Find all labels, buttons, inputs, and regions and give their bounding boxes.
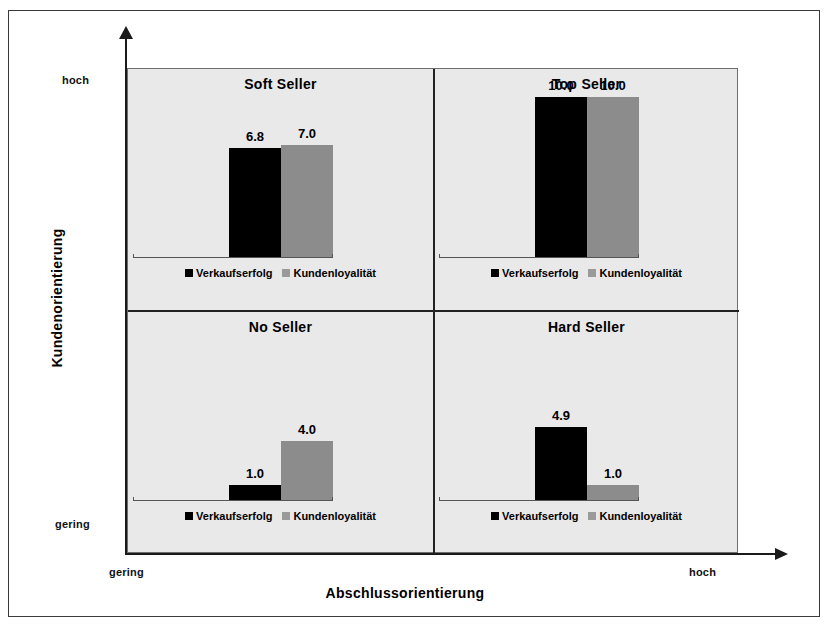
legend-item-verkaufserfolg: Verkaufserfolg	[185, 510, 272, 522]
panel-chart: 4.9 1.0	[482, 352, 692, 500]
legend-item-verkaufserfolg: Verkaufserfolg	[491, 267, 578, 279]
bar-verkaufserfolg[interactable]: 4.9	[535, 427, 587, 500]
panel-legend: Verkaufserfolg Kundenloyalität	[128, 267, 433, 279]
bar-value-label: 1.0	[246, 466, 264, 481]
legend-item-verkaufserfolg: Verkaufserfolg	[491, 510, 578, 522]
bars-area: 4.9 1.0	[482, 352, 692, 500]
legend-item-kundenloyalitaet: Kundenloyalität	[588, 267, 682, 279]
y-axis-tick-low: gering	[55, 518, 90, 530]
panel-baseline	[439, 257, 639, 258]
quadrant-title: No Seller	[128, 319, 433, 335]
bar-value-label: 1.0	[604, 466, 622, 481]
quadrant-no-seller[interactable]: No Seller 1.0 4.0 Verkaufserfolg	[128, 312, 433, 553]
legend-swatch-icon	[491, 269, 499, 277]
bar-value-label: 7.0	[298, 126, 316, 141]
bar-kundenloyalitaet[interactable]: 1.0	[587, 485, 639, 500]
quadrant-title: Top Seller	[434, 76, 739, 92]
bar-pair: 4.9 1.0	[535, 352, 639, 500]
panel-legend: Verkaufserfolg Kundenloyalität	[128, 510, 433, 522]
bar-value-label: 10.0	[600, 78, 625, 93]
bar-kundenloyalitaet[interactable]: 4.0	[281, 441, 333, 500]
legend-swatch-icon	[282, 512, 290, 520]
y-axis-tick-high: hoch	[62, 74, 89, 86]
bars-area: 1.0 4.0	[176, 352, 386, 500]
y-axis-title: Kundenorientierung	[49, 203, 65, 393]
panel-chart: 1.0 4.0	[176, 352, 386, 500]
quadrant-title: Hard Seller	[434, 319, 739, 335]
panel-chart: 6.8 7.0	[176, 97, 386, 257]
legend-swatch-icon	[491, 512, 499, 520]
bar-verkaufserfolg[interactable]: 10.0	[535, 97, 587, 257]
bar-pair: 1.0 4.0	[229, 352, 333, 500]
panel-chart: 10.0 10.0	[482, 97, 692, 257]
bar-verkaufserfolg[interactable]: 1.0	[229, 485, 281, 500]
legend-item-kundenloyalitaet: Kundenloyalität	[588, 510, 682, 522]
bar-value-label: 6.8	[246, 129, 264, 144]
bar-value-label: 10.0	[548, 78, 573, 93]
legend-swatch-icon	[588, 269, 596, 277]
bars-area: 6.8 7.0	[176, 97, 386, 257]
legend-swatch-icon	[185, 269, 193, 277]
bar-kundenloyalitaet[interactable]: 10.0	[587, 97, 639, 257]
legend-label: Verkaufserfolg	[196, 510, 272, 522]
x-axis-line	[125, 553, 777, 555]
legend-label: Verkaufserfolg	[502, 267, 578, 279]
panel-baseline	[133, 500, 333, 501]
legend-item-kundenloyalitaet: Kundenloyalität	[282, 510, 376, 522]
quadrant-title: Soft Seller	[128, 76, 433, 92]
bar-value-label: 4.0	[298, 422, 316, 437]
bar-value-label: 4.9	[552, 408, 570, 423]
y-axis-arrow-icon	[119, 26, 133, 39]
legend-swatch-icon	[282, 269, 290, 277]
legend-item-kundenloyalitaet: Kundenloyalität	[282, 267, 376, 279]
legend-label: Verkaufserfolg	[196, 267, 272, 279]
panel-legend: Verkaufserfolg Kundenloyalität	[434, 510, 739, 522]
legend-swatch-icon	[185, 512, 193, 520]
legend-item-verkaufserfolg: Verkaufserfolg	[185, 267, 272, 279]
bar-kundenloyalitaet[interactable]: 7.0	[281, 145, 333, 257]
legend-label: Verkaufserfolg	[502, 510, 578, 522]
x-axis-arrow-icon	[775, 548, 788, 560]
x-axis-title: Abschlussorientierung	[235, 585, 575, 601]
quadrant-soft-seller[interactable]: Soft Seller 6.8 7.0 Verkaufserfolg	[128, 69, 433, 310]
x-axis-tick-low: gering	[109, 566, 144, 578]
panel-legend: Verkaufserfolg Kundenloyalität	[434, 267, 739, 279]
panel-baseline	[439, 500, 639, 501]
legend-label: Kundenloyalität	[293, 510, 376, 522]
panel-baseline	[133, 257, 333, 258]
legend-label: Kundenloyalität	[599, 267, 682, 279]
legend-label: Kundenloyalität	[293, 267, 376, 279]
legend-label: Kundenloyalität	[599, 510, 682, 522]
bar-pair: 10.0 10.0	[535, 97, 639, 257]
quadrant-matrix: Soft Seller 6.8 7.0 Verkaufserfolg	[127, 68, 738, 553]
quadrant-top-seller[interactable]: Top Seller 10.0 10.0 Verkaufserfolg	[434, 69, 739, 310]
bar-verkaufserfolg[interactable]: 6.8	[229, 148, 281, 257]
quadrant-hard-seller[interactable]: Hard Seller 4.9 1.0 Verkaufserfolg	[434, 312, 739, 553]
x-axis-tick-high: hoch	[689, 566, 716, 578]
bars-area: 10.0 10.0	[482, 97, 692, 257]
bar-pair: 6.8 7.0	[229, 97, 333, 257]
legend-swatch-icon	[588, 512, 596, 520]
